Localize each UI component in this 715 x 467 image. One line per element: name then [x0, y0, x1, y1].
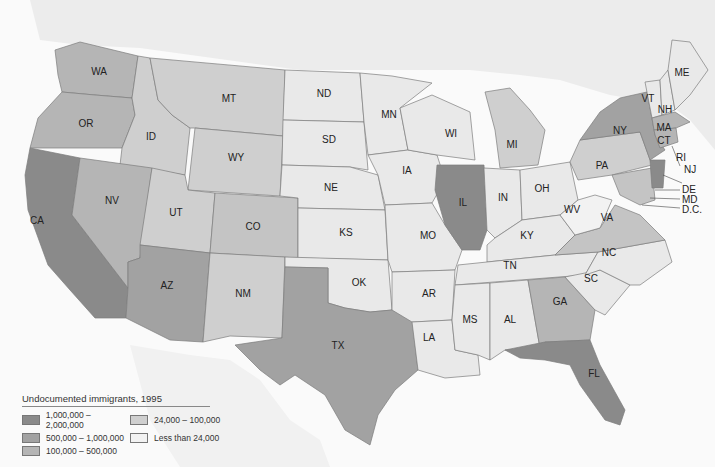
label-nd: ND: [317, 88, 331, 99]
label-nm: NM: [235, 288, 251, 299]
legend-item: 24,000 – 100,000: [130, 410, 240, 430]
legend-swatch: [22, 446, 40, 456]
state-sd[interactable]: [282, 120, 368, 170]
label-mt: MT: [222, 93, 236, 104]
label-ut: UT: [169, 207, 182, 218]
label-wy: WY: [228, 152, 244, 163]
label-az: AZ: [161, 280, 174, 291]
label-mn: MN: [381, 109, 397, 120]
state-md[interactable]: [612, 168, 655, 205]
legend-label: 100,000 – 500,000: [46, 446, 117, 456]
label-ks: KS: [339, 227, 353, 238]
label-al: AL: [504, 314, 517, 325]
label-ia: IA: [402, 165, 412, 176]
label-nh: NH: [658, 104, 672, 115]
legend-item: 500,000 – 1,000,000: [22, 433, 130, 443]
label-wi: WI: [445, 128, 457, 139]
legend-swatch: [130, 433, 148, 443]
legend-label: Less than 24,000: [154, 433, 219, 443]
label-me: ME: [675, 67, 690, 78]
label-oh: OH: [535, 183, 550, 194]
label-co: CO: [246, 221, 261, 232]
label-wa: WA: [91, 66, 107, 77]
label-il: IL: [459, 197, 468, 208]
state-wi[interactable]: [400, 95, 475, 160]
label-ne: NE: [324, 182, 338, 193]
label-ri: RI: [676, 152, 686, 163]
label-mo: MO: [420, 230, 436, 241]
legend-label: 500,000 – 1,000,000: [46, 433, 124, 443]
legend-swatch: [130, 415, 148, 425]
label-sc: SC: [584, 273, 598, 284]
label-nj: NJ: [684, 164, 696, 175]
label-tx: TX: [332, 340, 345, 351]
label-tn: TN: [503, 260, 516, 271]
legend-item: 100,000 – 500,000: [22, 446, 130, 456]
state-az[interactable]: [126, 245, 210, 342]
label-id: ID: [146, 131, 156, 142]
label-ar: AR: [422, 288, 436, 299]
label-ct: CT: [657, 135, 670, 146]
label-or: OR: [79, 118, 94, 129]
legend-swatch: [22, 433, 40, 443]
state-fl[interactable]: [505, 340, 625, 425]
label-la: LA: [423, 332, 436, 343]
label-ca: CA: [30, 215, 44, 226]
label-ky: KY: [520, 230, 534, 241]
legend-label: 24,000 – 100,000: [154, 415, 220, 425]
label-dc: D.C.: [682, 204, 702, 215]
label-sd: SD: [322, 134, 336, 145]
label-ma: MA: [657, 122, 672, 133]
label-vt: VT: [642, 93, 655, 104]
legend-title: Undocumented immigrants, 1995: [22, 393, 210, 407]
state-mi[interactable]: [485, 88, 545, 168]
legend-item: 1,000,000 – 2,000,000: [22, 410, 130, 430]
legend-item: Less than 24,000: [130, 433, 240, 443]
label-fl: FL: [588, 368, 600, 379]
label-ny: NY: [613, 125, 627, 136]
label-nc: NC: [602, 247, 616, 258]
label-in: IN: [498, 192, 508, 203]
label-pa: PA: [596, 160, 609, 171]
label-wv: WV: [564, 204, 580, 215]
label-ms: MS: [463, 314, 478, 325]
legend-swatch: [22, 415, 40, 425]
label-mi: MI: [506, 139, 517, 150]
label-va: VA: [601, 212, 614, 223]
legend-label: 1,000,000 – 2,000,000: [46, 410, 130, 430]
label-ok: OK: [352, 277, 367, 288]
state-nj[interactable]: [650, 160, 665, 188]
label-nv: NV: [105, 195, 119, 206]
label-ga: GA: [553, 296, 568, 307]
legend: Undocumented immigrants, 1995 1,000,000 …: [22, 393, 262, 456]
